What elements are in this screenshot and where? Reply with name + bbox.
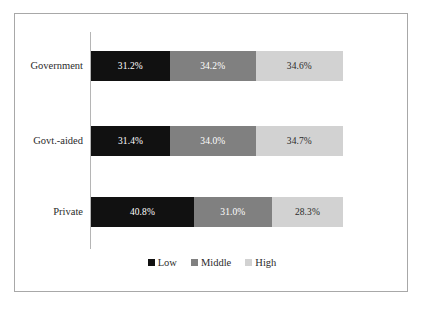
bar-row: Government 31.2% 34.2% 34.6% (15, 51, 409, 81)
bar-row: Govt.-aided 31.4% 34.0% 34.7% (15, 126, 409, 156)
bar-segment-middle[interactable]: 34.2% (170, 51, 256, 81)
legend-item-low[interactable]: Low (148, 257, 177, 268)
chart-frame: Government 31.2% 34.2% 34.6% Govt.-aided… (14, 13, 408, 292)
legend-swatch-icon (191, 259, 198, 266)
legend-label: High (255, 257, 276, 268)
legend-swatch-icon (148, 259, 155, 266)
stacked-bar-private: 40.8% 31.0% 28.3% (91, 197, 343, 227)
category-label-government: Government (15, 51, 83, 81)
bar-segment-high[interactable]: 34.7% (256, 126, 343, 156)
plot-area: Government 31.2% 34.2% 34.6% Govt.-aided… (15, 14, 409, 293)
bar-segment-low[interactable]: 40.8% (91, 197, 194, 227)
bar-segment-high[interactable]: 28.3% (272, 197, 343, 227)
legend-swatch-icon (245, 259, 252, 266)
legend-label: Middle (201, 257, 231, 268)
legend-item-high[interactable]: High (245, 257, 276, 268)
stacked-bar-government: 31.2% 34.2% 34.6% (91, 51, 343, 81)
bar-row: Private 40.8% 31.0% 28.3% (15, 197, 409, 227)
legend-item-middle[interactable]: Middle (191, 257, 231, 268)
bar-segment-middle[interactable]: 31.0% (194, 197, 272, 227)
stacked-bar-govt-aided: 31.4% 34.0% 34.7% (91, 126, 343, 156)
bar-segment-high[interactable]: 34.6% (256, 51, 343, 81)
legend-label: Low (158, 257, 177, 268)
chart-legend: Low Middle High (15, 257, 409, 268)
category-label-private: Private (15, 197, 83, 227)
bar-segment-low[interactable]: 31.2% (91, 51, 170, 81)
category-label-govt-aided: Govt.-aided (15, 126, 83, 156)
bar-segment-low[interactable]: 31.4% (91, 126, 170, 156)
bar-segment-middle[interactable]: 34.0% (170, 126, 256, 156)
